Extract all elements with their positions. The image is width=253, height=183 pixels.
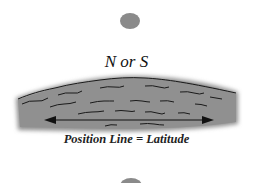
celestial-body-bottom-icon <box>120 178 142 183</box>
celestial-body-icon <box>120 13 140 29</box>
hemisphere-label: N or S <box>0 52 253 72</box>
latitude-diagram: N or S Position Line = Latitude <box>0 0 253 183</box>
position-line-label: Position Line = Latitude <box>0 132 253 147</box>
diagram-graphic <box>0 0 253 183</box>
